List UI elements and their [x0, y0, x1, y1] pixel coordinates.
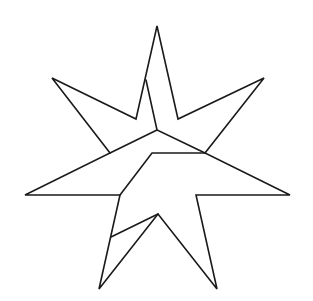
- dissection-line-1: [146, 80, 205, 153]
- dissection-line-4: [111, 214, 158, 237]
- internal-dissection-lines: [110, 80, 205, 237]
- diagram-canvas: [0, 0, 313, 301]
- star-figure: [0, 0, 313, 301]
- dissection-line-2: [110, 130, 157, 153]
- star-outline: [25, 26, 290, 289]
- dissection-line-3: [120, 153, 205, 195]
